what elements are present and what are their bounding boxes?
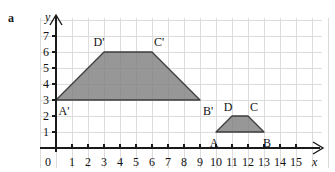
x-tick-label-2: 2 xyxy=(85,156,91,168)
x-tick-label-9: 9 xyxy=(197,156,203,168)
x-tick-label-13: 13 xyxy=(258,156,270,168)
y-tick-label-6: 6 xyxy=(43,46,49,58)
vertex-label-B: B xyxy=(263,137,271,149)
vertex-label-D: D xyxy=(224,101,233,113)
vertex-label-A: A xyxy=(210,137,219,149)
y-tick-label-7: 7 xyxy=(43,30,49,42)
plotted-shapes xyxy=(56,52,264,132)
y-axis-label: y xyxy=(45,11,50,23)
figure-canvas: a 01234567891011121314151234567yxA'B'C'D… xyxy=(0,0,335,172)
y-tick-label-1: 1 xyxy=(43,126,49,138)
y-tick-label-4: 4 xyxy=(43,78,49,90)
x-tick-label-12: 12 xyxy=(242,156,254,168)
vertex-label-D-prime: D' xyxy=(94,36,105,48)
x-tick-label-6: 6 xyxy=(149,156,155,168)
x-tick-label-1: 1 xyxy=(69,156,75,168)
y-tick-label-5: 5 xyxy=(43,62,49,74)
x-tick-label-14: 14 xyxy=(274,156,286,168)
x-tick-label-7: 7 xyxy=(165,156,171,168)
y-tick-label-3: 3 xyxy=(43,94,49,106)
x-tick-label-8: 8 xyxy=(181,156,187,168)
vertex-label-B-prime: B' xyxy=(203,105,213,117)
x-axis-label: x xyxy=(312,156,317,168)
vertex-label-C-prime: C' xyxy=(154,36,164,48)
x-tick-label-3: 3 xyxy=(101,156,107,168)
x-tick-label-11: 11 xyxy=(226,156,238,168)
vertex-label-C: C xyxy=(250,101,258,113)
x-tick-label-4: 4 xyxy=(117,156,123,168)
x-tick-label-5: 5 xyxy=(133,156,139,168)
x-tick-label-15: 15 xyxy=(290,156,302,168)
y-tick-label-2: 2 xyxy=(43,110,49,122)
trapezoid-original xyxy=(216,116,264,132)
x-tick-label-10: 10 xyxy=(210,156,222,168)
plot-svg xyxy=(0,0,335,172)
trapezoid-image xyxy=(56,52,200,100)
coordinate-plot: 01234567891011121314151234567yxA'B'C'D'A… xyxy=(0,0,335,172)
vertex-label-A-prime: A' xyxy=(59,105,70,117)
x-tick-label-0: 0 xyxy=(45,156,51,168)
